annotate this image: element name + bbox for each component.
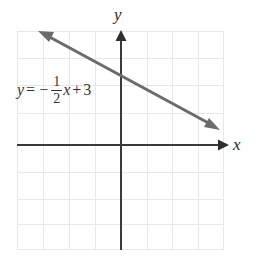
equation-annotation: y=−12x+3 <box>17 76 91 108</box>
equation-plus-sign: + <box>70 81 83 98</box>
equation-constant: 3 <box>83 81 91 98</box>
fraction-numerator: 1 <box>51 75 62 89</box>
coordinate-plane <box>0 0 256 268</box>
equation-fraction: 12 <box>51 75 62 107</box>
y-axis <box>116 30 127 250</box>
fraction-denominator: 2 <box>51 92 62 106</box>
equation-equals: = <box>24 81 37 98</box>
linear-function-graph: y x y=−12x+3 <box>0 0 256 268</box>
x-axis <box>17 140 229 151</box>
equation-minus-sign: − <box>37 81 50 98</box>
y-axis-label: y <box>114 6 122 23</box>
x-axis-label: x <box>233 136 241 153</box>
